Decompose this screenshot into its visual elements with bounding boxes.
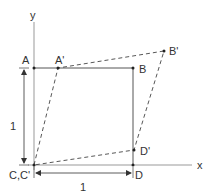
label-D: D [135,169,143,181]
y-axis-label: y [30,9,36,21]
label-A: A [22,54,30,66]
label-D-prime: D' [140,145,150,157]
vertical-dimension-label: 1 [10,120,16,132]
horizontal-dimension-label: 1 [80,181,86,193]
point-D [132,164,135,167]
x-axis-label: x [197,159,203,171]
point-C [33,164,36,167]
original-square [34,68,133,165]
label-C: C,C' [9,169,30,181]
shear-diagram: y x A A' B B' C,C' D D' 1 1 [0,0,214,196]
label-B: B [139,63,146,75]
point-B [132,67,135,70]
label-A-prime: A' [55,54,64,66]
label-B-prime: B' [169,45,178,57]
point-D-prime [133,149,136,152]
point-B-prime [163,50,166,53]
point-A [33,67,36,70]
point-A-prime [57,67,60,70]
